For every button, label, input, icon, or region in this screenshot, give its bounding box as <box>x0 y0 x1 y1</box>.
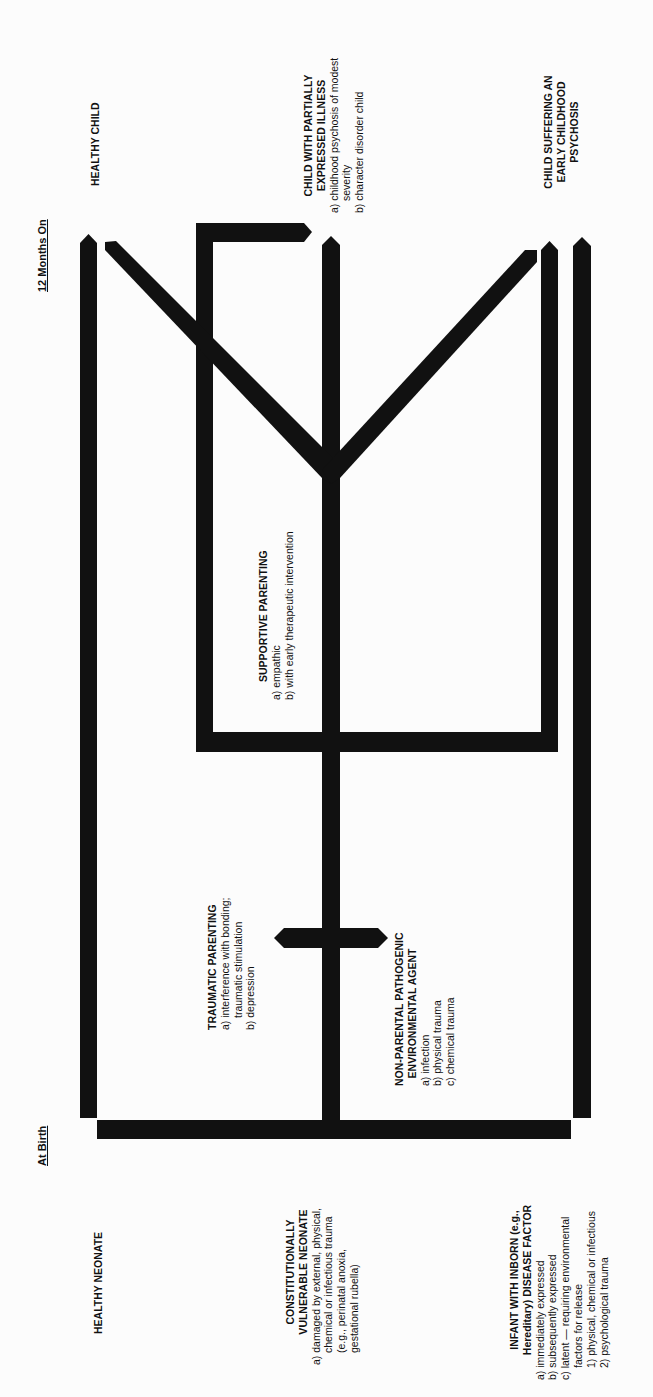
supportive-top-arm-arrow <box>196 223 312 242</box>
partial-illness-arrow <box>322 236 340 475</box>
outcome-early-childhood-psychosis: CHILD SUFFERING AN EARLY CHILDHOOD PSYCH… <box>542 62 580 202</box>
origin-healthy-neonate: HEALTHY NEONATE <box>92 1232 105 1334</box>
influence-traumatic-parenting: TRAUMATIC PARENTING a) interference with… <box>206 898 257 1031</box>
origin-vulnerable-neonate: CONSTITUTIONALLY VULNERABLE NEONATE a) d… <box>284 1179 361 1365</box>
influence-crossbar <box>274 928 388 948</box>
supportive-u-right <box>541 250 558 752</box>
outcome-healthy-child: HEALTHY CHILD <box>89 102 102 186</box>
influence-nonparental-agent: NON-PARENTAL PATHOGENIC ENVIRONMENTAL AG… <box>393 941 457 1086</box>
timeline-start-label: At Birth <box>36 1126 49 1166</box>
fork-diagonal-to-healthy <box>105 241 341 484</box>
psychosis-path-arrow <box>573 237 591 1118</box>
origin-inborn-disease-factor: INFANT WITH INBORN (e.g., Hereditary) DI… <box>508 1180 610 1380</box>
fork-diagonal-to-psychosis <box>322 250 537 484</box>
influence-supportive-parenting: SUPPORTIVE PARENTING a) empathic b) with… <box>257 531 295 700</box>
supportive-u-bottom <box>196 732 558 752</box>
supportive-u-left <box>196 223 213 752</box>
outcome-partially-expressed-illness: CHILD WITH PARTIALLY EXPRESSED ILLNESS a… <box>302 58 366 213</box>
timeline-end-label: 12 Months On <box>36 219 49 292</box>
healthy-path-arrow <box>80 234 97 1118</box>
birth-connector-bar <box>97 1120 571 1139</box>
